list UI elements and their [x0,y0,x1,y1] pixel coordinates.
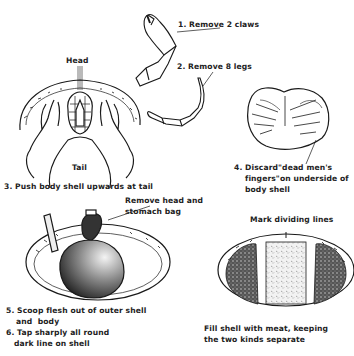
step-4-label-line2: fingers"on underside of [245,174,349,183]
step-5-label-line2: and body [16,317,59,326]
fill-shell-label-line1: Fill shell with meat, keeping [204,324,328,333]
scoop-flesh-drawing [26,206,170,300]
step-6-label-line2: dark line on shell [14,339,90,348]
step-5-label-line1: 5. Scoop flesh out of outer shell [6,306,146,315]
step-4-label-line1: 4. Discard"dead men's [234,163,332,172]
dead-mens-fingers-drawing [248,88,329,164]
step-4-label-line3: body shell [245,185,290,194]
step-2-label: 2. Remove 8 legs [177,62,252,71]
fill-shell-label-line2: the two kinds separate [204,335,305,344]
step-1-label: 1. Remove 2 claws [178,20,259,29]
head-label: Head [66,56,88,65]
filled-shell-drawing [218,232,354,306]
tail-label: Tail [72,163,87,172]
step-6-label-line1: 6. Tap sharply all round [6,328,109,337]
leg-drawing [148,72,213,126]
remove-head-label-line2: stomach bag [125,207,181,216]
remove-head-label-line1: Remove head and [125,196,203,205]
step-3-label: 3. Push body shell upwards at tail [4,182,153,191]
mark-lines-label: Mark dividing lines [250,215,333,224]
